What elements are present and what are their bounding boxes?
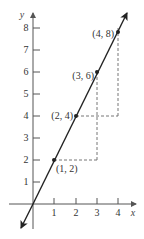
y-tick-label: 7	[24, 44, 29, 55]
line-y-equals-2x-lower	[21, 204, 33, 228]
y-axis-label: y	[19, 9, 25, 20]
point-1-2	[52, 158, 56, 162]
y-tick-label: 1	[24, 176, 29, 187]
point-label: (1, 2)	[56, 163, 78, 175]
x-ticks	[54, 198, 118, 204]
x-tick-label: 1	[52, 207, 57, 218]
y-tick-label: 6	[24, 66, 29, 77]
line-chart: 1 2 3 4 x 1 2 3 4 5 6 7 8 y (1, 2) (2, 4…	[0, 0, 144, 239]
x-tick-labels: 1 2 3 4	[52, 207, 121, 218]
y-tick-label: 8	[24, 22, 29, 33]
x-tick-label: 4	[116, 207, 121, 218]
point-label: (2, 4)	[51, 110, 73, 122]
point-4-8	[116, 30, 120, 34]
point-label: (3, 6)	[72, 70, 94, 82]
x-tick-label: 3	[95, 207, 100, 218]
x-tick-label: 2	[74, 207, 79, 218]
point-label: (4, 8)	[92, 28, 114, 40]
y-tick-label: 4	[24, 110, 29, 121]
line-y-equals-2x-upper	[33, 13, 127, 204]
y-ticks	[33, 28, 40, 182]
point-3-6	[95, 70, 99, 74]
y-tick-label: 2	[24, 154, 29, 165]
dashed-guides	[54, 28, 118, 160]
y-tick-labels: 1 2 3 4 5 6 7 8	[24, 22, 29, 187]
y-tick-label: 3	[24, 132, 29, 143]
x-axis-label: x	[130, 207, 136, 218]
y-tick-label: 5	[24, 88, 29, 99]
point-2-4	[74, 114, 78, 118]
